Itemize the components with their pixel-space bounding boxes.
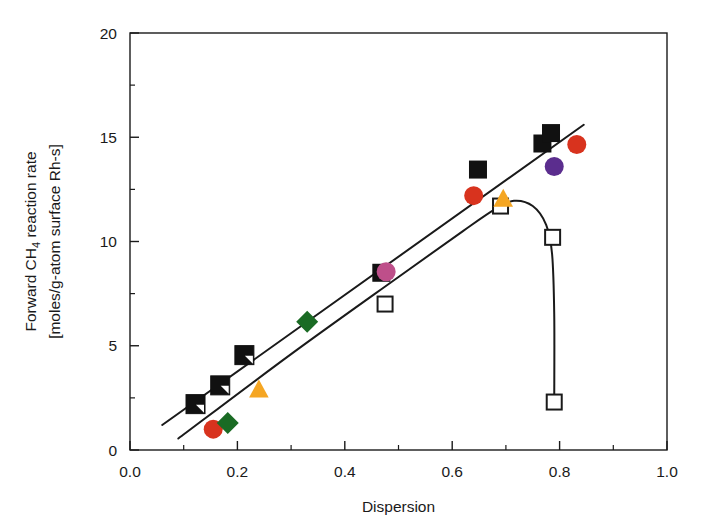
marker-square-filled — [469, 161, 487, 179]
y-tick-label: 15 — [100, 129, 117, 146]
marker-square-open — [547, 395, 562, 410]
x-tick-label: 0.8 — [549, 463, 571, 480]
y-tick-label: 5 — [108, 337, 117, 354]
marker-diamond — [296, 311, 318, 333]
x-tick-label: 1.0 — [656, 463, 678, 480]
scatter-plot: 0.00.20.40.60.81.005101520DispersionForw… — [0, 0, 721, 529]
x-tick-label: 0.2 — [227, 463, 249, 480]
trend-line — [178, 201, 554, 439]
marker-circle — [545, 157, 564, 176]
chart-figure: 0.00.20.40.60.81.005101520DispersionForw… — [0, 0, 721, 529]
y-tick-label: 0 — [108, 442, 117, 459]
marker-square-half — [235, 346, 254, 365]
x-tick-label: 0.0 — [119, 463, 141, 480]
y-axis-title-line2: [moles/g-atom surface Rh-s] — [46, 144, 63, 339]
x-axis-title: Dispersion — [362, 498, 435, 515]
marker-square-open — [545, 230, 560, 245]
marker-square-filled — [542, 124, 560, 142]
y-axis-title-line1: Forward CH4 reaction rate — [22, 151, 42, 331]
marker-circle — [567, 135, 586, 154]
marker-square-half — [211, 376, 230, 395]
marker-square-half — [186, 395, 205, 414]
marker-square-open — [378, 297, 393, 312]
x-tick-label: 0.4 — [334, 463, 356, 480]
y-tick-label: 10 — [100, 233, 118, 250]
x-tick-label: 0.6 — [441, 463, 463, 480]
data-markers — [186, 124, 586, 439]
axis-labels: 0.00.20.40.60.81.005101520DispersionForw… — [22, 25, 678, 516]
y-tick-label: 20 — [100, 25, 118, 42]
marker-circle — [377, 262, 396, 281]
marker-circle — [464, 186, 483, 205]
